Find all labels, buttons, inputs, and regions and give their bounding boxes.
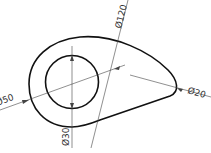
label-diameter-20: Ø20 <box>186 85 207 100</box>
arrow-icon <box>177 88 183 92</box>
arrow-icon <box>114 66 120 70</box>
arrow-icon <box>22 100 29 104</box>
label-diameter-120: Ø120 <box>113 3 129 29</box>
cad-drawing: Ø50 Ø30 Ø20 Ø120 <box>0 0 211 153</box>
label-diameter-30: Ø30 <box>61 127 71 146</box>
